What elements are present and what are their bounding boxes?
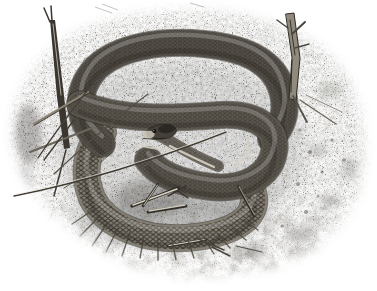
snake-drawing: Black-and-white stipple pen-and-ink illu… — [0, 0, 377, 291]
illustration-page: Black-and-white stipple pen-and-ink illu… — [0, 0, 377, 291]
snake-illustration: Black-and-white stipple pen-and-ink illu… — [0, 0, 377, 291]
